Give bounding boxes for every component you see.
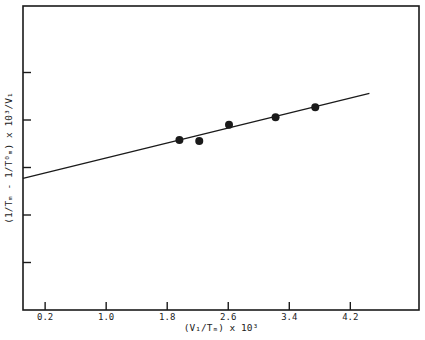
- x-axis-ticks: 0.21.01.82.63.44.2: [37, 302, 358, 322]
- data-point: [175, 136, 183, 144]
- data-points: [175, 103, 319, 145]
- data-point: [195, 137, 203, 145]
- data-point: [225, 121, 233, 129]
- plot-frame: [23, 6, 419, 310]
- x-tick-label: 4.2: [342, 312, 358, 322]
- x-tick-label: 3.4: [281, 312, 297, 322]
- data-point: [272, 113, 280, 121]
- x-axis-label: (V₁/Tₘ) x 10³: [184, 322, 258, 333]
- y-axis-ticks: [23, 73, 31, 263]
- y-axis-label: (1/Tₘ - 1/T⁰ₘ) x 10³/V₁: [3, 92, 14, 224]
- chart: 0.21.01.82.63.44.2 (V₁/Tₘ) x 10³ (1/Tₘ -…: [0, 0, 425, 340]
- x-tick-label: 0.2: [37, 312, 53, 322]
- x-tick-label: 1.0: [98, 312, 114, 322]
- x-tick-label: 1.8: [159, 312, 175, 322]
- x-tick-label: 2.6: [220, 312, 236, 322]
- data-point: [311, 103, 319, 111]
